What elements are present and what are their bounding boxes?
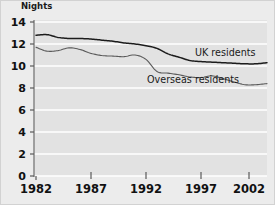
x-tick-label-1997: 1997 <box>178 182 224 196</box>
y-tick-label-12: 12 <box>4 38 26 51</box>
chart-figure: Nights <box>0 0 275 205</box>
series-label-uk-residents: UK residents <box>195 47 256 58</box>
y-tick-label-8: 8 <box>4 82 26 95</box>
y-tick-label-10: 10 <box>4 60 26 73</box>
x-tick-label-2002: 2002 <box>226 182 272 196</box>
y-tick-label-2: 2 <box>4 148 26 161</box>
x-tick-label-1987: 1987 <box>68 182 114 196</box>
plot-canvas <box>0 0 275 205</box>
y-tick-label-14: 14 <box>4 16 26 29</box>
series-label-overseas-residents: Overseas residents <box>147 74 239 85</box>
y-tick-label-6: 6 <box>4 104 26 117</box>
x-tick-label-1982: 1982 <box>13 182 59 196</box>
y-tick-label-4: 4 <box>4 126 26 139</box>
x-tick-label-1992: 1992 <box>123 182 169 196</box>
